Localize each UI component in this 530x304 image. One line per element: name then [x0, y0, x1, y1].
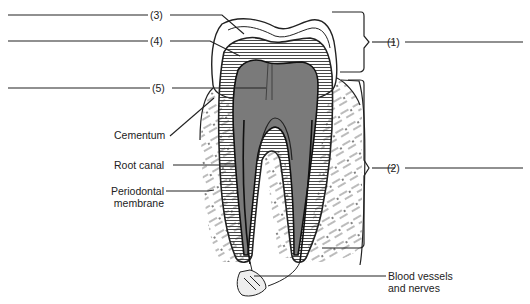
label-periodontal-membrane: Periodontal membrane: [110, 185, 164, 209]
label-blood-line2: and nerves: [388, 282, 453, 294]
label-3: (3): [150, 9, 163, 21]
label-1: (1): [387, 36, 400, 48]
label-periodontal-line1: Periodontal: [110, 185, 164, 197]
label-blood-line1: Blood vessels: [388, 270, 453, 282]
label-blood-vessels-nerves: Blood vessels and nerves: [388, 270, 453, 294]
label-4: (4): [150, 35, 163, 47]
tooth-diagram: [0, 0, 530, 304]
label-cementum: Cementum: [114, 129, 165, 141]
label-root-canal: Root canal: [114, 159, 164, 171]
label-periodontal-line2: membrane: [110, 197, 164, 209]
label-2: (2): [387, 162, 400, 174]
crown-bracket: [332, 12, 369, 72]
label-5: (5): [152, 82, 165, 94]
nerve-bundle: [237, 262, 300, 296]
